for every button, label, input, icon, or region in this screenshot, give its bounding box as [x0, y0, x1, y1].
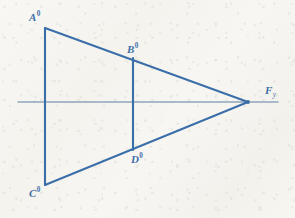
- point-label-a0-superscript: 0: [37, 10, 41, 18]
- point-label-c0: C0: [29, 188, 40, 199]
- point-label-d0-base: D: [131, 153, 139, 165]
- point-label-c0-superscript: 0: [37, 186, 41, 194]
- point-label-fy-subscript: y: [273, 91, 276, 99]
- point-label-d0: D0: [131, 154, 143, 165]
- perspective-diagram: A0 B0 C0 D0 Fy: [0, 0, 295, 218]
- point-label-b0-superscript: 0: [135, 42, 139, 50]
- point-label-a0-base: A: [29, 11, 36, 23]
- point-label-fy-base: F: [265, 84, 272, 96]
- diagram-canvas: [0, 0, 295, 218]
- point-label-fy: Fy: [265, 85, 276, 96]
- point-label-a0: A0: [29, 12, 40, 23]
- point-label-b0-base: B: [127, 43, 134, 55]
- point-label-c0-base: C: [29, 187, 36, 199]
- vanishing-point-marker: [246, 100, 250, 104]
- point-label-b0: B0: [127, 44, 138, 55]
- ray-a0-to-vanishing-point: [45, 28, 248, 102]
- point-label-d0-superscript: 0: [139, 152, 143, 160]
- ray-c0-to-vanishing-point: [45, 102, 248, 185]
